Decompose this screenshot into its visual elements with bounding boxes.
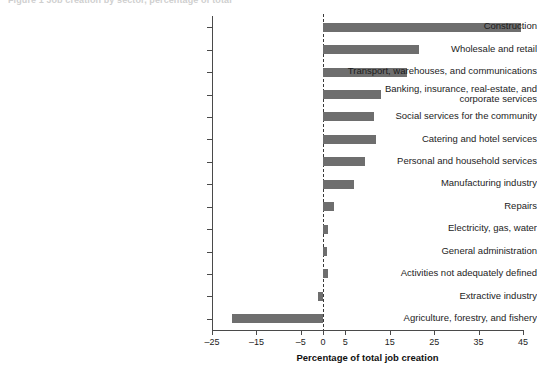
y-axis-tick xyxy=(207,50,212,51)
x-axis-tick-label: 15 xyxy=(385,337,395,347)
x-axis-tick-label: 25 xyxy=(429,337,439,347)
category-label: Manufacturing industry xyxy=(331,178,537,189)
bar xyxy=(318,292,323,301)
y-axis-tick xyxy=(207,252,212,253)
y-axis-tick xyxy=(207,184,212,185)
bar xyxy=(232,314,323,323)
y-axis-tick xyxy=(207,139,212,140)
x-axis-tick-label: 5 xyxy=(343,337,348,347)
x-axis-tick-label: –15 xyxy=(249,337,264,347)
bar xyxy=(323,225,327,234)
category-label: Transport, warehouses, and communication… xyxy=(331,66,537,77)
x-axis-tick-label: 35 xyxy=(474,337,484,347)
category-label: Activities not adequately defined xyxy=(331,268,537,279)
y-axis-tick xyxy=(207,117,212,118)
category-label: Social services for the community xyxy=(331,111,537,122)
category-label: Personal and household services xyxy=(331,156,537,167)
y-axis-tick xyxy=(207,162,212,163)
chart-plot-area: ConstructionWholesale and retailTranspor… xyxy=(0,0,537,372)
x-axis-tick-label: 45 xyxy=(518,337,528,347)
figure-job-creation-by-sector: Figure 1 Job creation by sector, percent… xyxy=(0,0,537,372)
category-label: Banking, insurance, real-estate, and cor… xyxy=(331,84,537,105)
y-axis-tick xyxy=(207,27,212,28)
x-axis-tick-label: –5 xyxy=(296,337,306,347)
x-axis-tick xyxy=(301,330,302,335)
y-axis-tick xyxy=(207,207,212,208)
category-label: Wholesale and retail xyxy=(331,44,537,55)
x-axis-tick xyxy=(434,330,435,335)
category-label: General administration xyxy=(331,246,537,257)
y-axis-tick xyxy=(207,319,212,320)
x-axis-tick-label: 0 xyxy=(321,337,326,347)
y-axis-line xyxy=(212,16,213,330)
x-axis-tick xyxy=(212,330,213,335)
x-axis-title: Percentage of total job creation xyxy=(212,352,523,363)
y-axis-tick xyxy=(207,229,212,230)
category-label: Agriculture, forestry, and fishery xyxy=(331,313,537,324)
category-label: Electricity, gas, water xyxy=(331,223,537,234)
category-label: Extractive industry xyxy=(331,291,537,302)
category-label: Repairs xyxy=(331,201,537,212)
x-axis-tick xyxy=(345,330,346,335)
x-axis-tick xyxy=(479,330,480,335)
x-axis-tick xyxy=(256,330,257,335)
zero-reference-line xyxy=(323,14,324,332)
bar xyxy=(323,269,328,278)
x-axis-line xyxy=(212,330,523,331)
category-label: Construction xyxy=(331,21,537,32)
x-axis-tick xyxy=(323,330,324,335)
x-axis-tick xyxy=(523,330,524,335)
y-axis-tick xyxy=(207,72,212,73)
y-axis-tick xyxy=(207,274,212,275)
y-axis-tick xyxy=(207,95,212,96)
x-axis-tick-label: –25 xyxy=(204,337,219,347)
y-axis-tick xyxy=(207,296,212,297)
category-label: Catering and hotel services xyxy=(331,134,537,145)
bar xyxy=(323,247,327,256)
x-axis-tick xyxy=(390,330,391,335)
